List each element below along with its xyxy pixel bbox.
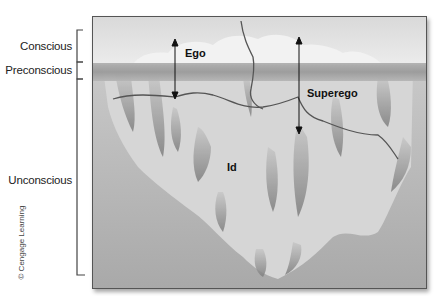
ego-label: Ego bbox=[185, 47, 206, 59]
id-label: Id bbox=[227, 161, 237, 173]
waterline-band bbox=[93, 63, 426, 81]
iceberg-illustration bbox=[93, 17, 426, 288]
level-label-preconscious: Preconscious bbox=[0, 64, 72, 76]
copyright-credit: © Cengage Learning bbox=[17, 190, 26, 280]
iceberg-diagram: Ego Superego Id bbox=[92, 16, 427, 289]
level-label-unconscious: Unconscious bbox=[0, 174, 72, 186]
level-label-conscious: Conscious bbox=[0, 40, 72, 52]
superego-label: Superego bbox=[307, 87, 358, 99]
